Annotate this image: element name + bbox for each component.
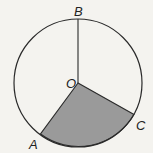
- shaded-sector-aoc: [41, 83, 135, 147]
- label-b: B: [74, 4, 83, 19]
- circle-diagram: B O A C: [0, 0, 153, 153]
- label-c: C: [136, 118, 146, 133]
- label-o: O: [66, 76, 76, 91]
- label-a: A: [28, 137, 38, 152]
